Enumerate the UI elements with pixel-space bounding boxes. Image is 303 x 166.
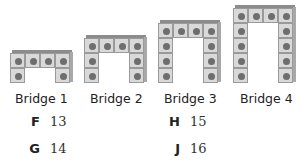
cube-stud-icon	[208, 73, 215, 80]
connecting-cube	[84, 68, 99, 83]
connecting-cube	[233, 8, 248, 23]
answer-choice-g[interactable]: G14	[24, 141, 67, 156]
connecting-cube	[203, 23, 218, 38]
cube-stud-icon	[89, 73, 96, 80]
connecting-cube	[233, 23, 248, 38]
bridge-3-label: Bridge 3	[164, 91, 217, 106]
bridge-side-edge	[144, 37, 147, 82]
bridge-side-edge	[218, 22, 221, 82]
answer-choice-j[interactable]: J16	[164, 141, 207, 156]
connecting-cube	[158, 23, 173, 38]
bridge-4-label: Bridge 4	[240, 91, 293, 106]
cube-stud-icon	[283, 58, 290, 65]
cube-stud-icon	[60, 58, 67, 65]
cube-stud-icon	[15, 58, 22, 65]
cube-stud-icon	[238, 43, 245, 50]
connecting-cube	[99, 38, 114, 53]
connecting-cube	[55, 53, 70, 68]
connecting-cube	[40, 53, 55, 68]
connecting-cube	[84, 53, 99, 68]
connecting-cube	[203, 53, 218, 68]
connecting-cube	[10, 68, 25, 83]
cube-stud-icon	[60, 73, 67, 80]
choice-value: 14	[50, 141, 67, 156]
choice-letter: H	[164, 114, 180, 129]
connecting-cube	[129, 53, 144, 68]
connecting-cube	[173, 23, 188, 38]
cube-stud-icon	[238, 28, 245, 35]
connecting-cube	[129, 68, 144, 83]
connecting-cube	[233, 68, 248, 83]
connecting-cube	[203, 38, 218, 53]
connecting-cube	[10, 53, 25, 68]
connecting-cube	[158, 53, 173, 68]
cube-stud-icon	[15, 73, 22, 80]
cube-stud-icon	[119, 43, 126, 50]
connecting-cube	[278, 38, 293, 53]
choice-letter: G	[24, 141, 40, 156]
bridge-2-label: Bridge 2	[90, 91, 143, 106]
connecting-cube	[25, 53, 40, 68]
connecting-cube	[278, 8, 293, 23]
bridge-2	[84, 35, 147, 83]
connecting-cube	[158, 68, 173, 83]
cube-stud-icon	[134, 43, 141, 50]
connecting-cube	[114, 38, 129, 53]
cube-stud-icon	[134, 58, 141, 65]
connecting-cube	[203, 68, 218, 83]
connecting-cube	[129, 38, 144, 53]
bridge-3	[158, 20, 221, 83]
connecting-cube	[55, 68, 70, 83]
connecting-cube	[278, 53, 293, 68]
connecting-cube	[84, 38, 99, 53]
cube-stud-icon	[104, 43, 111, 50]
bridge-side-edge	[70, 52, 73, 82]
cube-stud-icon	[163, 58, 170, 65]
cube-stud-icon	[283, 73, 290, 80]
connecting-cube	[248, 8, 263, 23]
cube-stud-icon	[238, 73, 245, 80]
cube-stud-icon	[163, 28, 170, 35]
bridge-4	[233, 5, 296, 83]
cube-stud-icon	[193, 28, 200, 35]
choice-value: 15	[190, 114, 207, 129]
cube-stud-icon	[30, 58, 37, 65]
choice-letter: F	[24, 114, 40, 129]
cube-stud-icon	[163, 73, 170, 80]
cube-stud-icon	[89, 58, 96, 65]
connecting-cube	[278, 68, 293, 83]
choice-letter: J	[164, 141, 180, 156]
cube-stud-icon	[89, 43, 96, 50]
connecting-cube	[263, 8, 278, 23]
cube-stud-icon	[134, 73, 141, 80]
cube-stud-icon	[268, 13, 275, 20]
connecting-cube	[233, 53, 248, 68]
choice-value: 16	[190, 141, 207, 156]
connecting-cube	[233, 38, 248, 53]
bridge-1	[10, 50, 73, 83]
cube-stud-icon	[163, 43, 170, 50]
cube-stud-icon	[45, 58, 52, 65]
connecting-cube	[158, 38, 173, 53]
connecting-cube	[278, 23, 293, 38]
cube-stud-icon	[283, 13, 290, 20]
answer-choice-h[interactable]: H15	[164, 114, 207, 129]
cube-stud-icon	[283, 43, 290, 50]
cube-stud-icon	[178, 28, 185, 35]
cube-stud-icon	[208, 28, 215, 35]
choice-value: 13	[50, 114, 67, 129]
cube-stud-icon	[283, 28, 290, 35]
cube-stud-icon	[208, 58, 215, 65]
bridge-side-edge	[293, 7, 296, 82]
bridge-1-label: Bridge 1	[15, 91, 68, 106]
answer-choice-f[interactable]: F13	[24, 114, 67, 129]
cube-stud-icon	[238, 58, 245, 65]
cube-stud-icon	[238, 13, 245, 20]
cube-stud-icon	[208, 43, 215, 50]
cube-stud-icon	[253, 13, 260, 20]
connecting-cube	[188, 23, 203, 38]
